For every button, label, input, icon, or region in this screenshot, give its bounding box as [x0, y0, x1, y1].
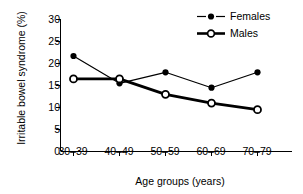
legend-label-males: Males — [230, 27, 258, 40]
data-point-males — [208, 100, 215, 107]
data-point-females — [208, 85, 214, 91]
data-point-females — [254, 69, 260, 75]
y-axis-ticks — [56, 20, 61, 130]
data-point-males — [162, 91, 169, 98]
x-axis-ticks — [74, 152, 258, 157]
data-point-males — [70, 75, 77, 82]
data-point-females — [70, 53, 76, 59]
series-markers-females — [70, 53, 260, 91]
filled-circle-marker-icon — [196, 8, 226, 25]
data-point-males — [116, 75, 123, 82]
data-point-males — [254, 106, 261, 113]
legend-label-females: Females — [230, 10, 270, 23]
chart-container: Irritable bowel syndrome (%) 30 25 20 15… — [0, 0, 303, 194]
data-point-females — [162, 69, 168, 75]
open-circle-marker-icon — [196, 25, 226, 42]
